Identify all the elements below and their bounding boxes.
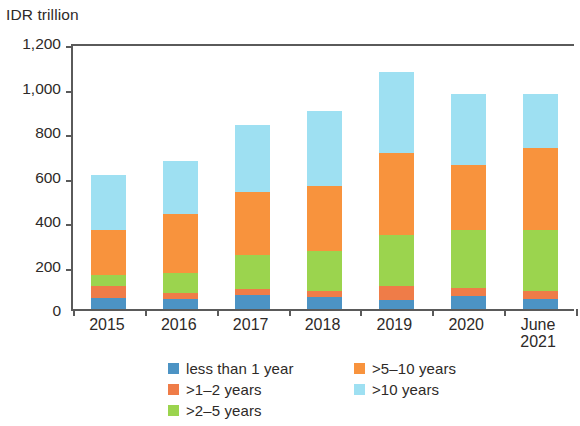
chart-legend: less than 1 year>1–2 years>2–5 years>5–1…	[168, 360, 498, 422]
legend-label: >5–10 years	[372, 360, 456, 377]
legend-label: less than 1 year	[186, 360, 294, 377]
bar-segment	[523, 148, 558, 230]
legend-label: >1–2 years	[186, 381, 262, 398]
legend-swatch-icon	[354, 384, 365, 395]
x-axis-tick	[504, 309, 506, 316]
legend-item[interactable]: >5–10 years	[354, 360, 456, 377]
bar-segment	[163, 273, 198, 293]
bar-segment	[91, 275, 126, 286]
y-axis-tick	[66, 269, 73, 271]
stacked-bar-chart: IDR trillion 02004006008001,0001,200 201…	[0, 0, 580, 426]
x-axis-tick-label: 2018	[287, 316, 359, 333]
legend-item[interactable]: >10 years	[354, 381, 439, 398]
legend-item[interactable]: >2–5 years	[168, 402, 262, 419]
bar-segment	[379, 235, 414, 286]
bar-stack	[91, 42, 126, 309]
bar-segment	[379, 72, 414, 153]
bar-stack	[379, 42, 414, 309]
bar-segment	[163, 161, 198, 214]
bar-segment	[451, 94, 486, 165]
x-axis-tick-label: 2020	[430, 316, 502, 333]
bar-segment	[91, 230, 126, 275]
y-axis-tick-label: 0	[0, 302, 61, 320]
legend-swatch-icon	[354, 363, 365, 374]
bar-segment	[235, 295, 270, 309]
bar-segment	[451, 165, 486, 230]
bar-segment	[163, 214, 198, 273]
bar-segment	[379, 153, 414, 235]
bar-segment	[523, 299, 558, 309]
x-axis-tick-label: 2017	[215, 316, 287, 333]
bar-segment	[235, 192, 270, 255]
legend-swatch-icon	[168, 405, 179, 416]
legend-label: >10 years	[372, 381, 439, 398]
bar-stack	[307, 42, 342, 309]
x-axis-tick	[73, 309, 75, 316]
bar-segment	[451, 230, 486, 288]
x-axis-tick	[360, 309, 362, 316]
y-axis-unit-label: IDR trillion	[6, 6, 79, 24]
bar-segment	[163, 293, 198, 299]
bar-segment	[307, 111, 342, 186]
x-axis-tick	[145, 309, 147, 316]
plot-area	[71, 44, 574, 311]
y-axis-tick-label: 200	[0, 258, 61, 276]
bars-layer	[73, 46, 574, 309]
x-axis-tick-label: 2016	[143, 316, 215, 333]
y-axis-tick	[66, 180, 73, 182]
x-axis-tick	[432, 309, 434, 316]
bar-segment	[307, 291, 342, 297]
y-axis-tick	[66, 135, 73, 137]
legend-swatch-icon	[168, 384, 179, 395]
bar-segment	[451, 296, 486, 309]
y-axis-tick-label: 400	[0, 213, 61, 231]
legend-item[interactable]: less than 1 year	[168, 360, 294, 377]
bar-segment	[91, 298, 126, 309]
bar-segment	[235, 125, 270, 192]
bar-segment	[523, 291, 558, 299]
legend-swatch-icon	[168, 363, 179, 374]
y-axis-tick-label: 1,200	[0, 35, 61, 53]
y-axis-tick	[66, 91, 73, 93]
y-axis-tick	[66, 46, 73, 48]
x-axis-tick-label: June 2021	[502, 316, 574, 351]
bar-segment	[91, 286, 126, 298]
x-axis-tick-label: 2015	[71, 316, 143, 333]
x-axis-tick	[217, 309, 219, 316]
y-axis-tick-label: 800	[0, 124, 61, 142]
y-axis-tick	[66, 224, 73, 226]
x-axis-tick	[289, 309, 291, 316]
bar-stack	[451, 42, 486, 309]
bar-segment	[523, 230, 558, 291]
bar-segment	[235, 255, 270, 289]
bar-segment	[307, 251, 342, 291]
bar-segment	[235, 289, 270, 295]
bar-segment	[379, 300, 414, 309]
y-axis-tick-label: 1,000	[0, 80, 61, 98]
bar-segment	[307, 186, 342, 251]
bar-stack	[523, 42, 558, 309]
bar-segment	[523, 94, 558, 149]
x-axis-tick	[576, 309, 578, 316]
bar-stack	[235, 42, 270, 309]
x-axis-tick-label: 2019	[358, 316, 430, 333]
legend-item[interactable]: >1–2 years	[168, 381, 262, 398]
legend-label: >2–5 years	[186, 402, 262, 419]
bar-stack	[163, 42, 198, 309]
bar-segment	[163, 299, 198, 309]
bar-segment	[379, 286, 414, 300]
bar-segment	[91, 175, 126, 230]
y-axis-tick-label: 600	[0, 169, 61, 187]
bar-segment	[451, 288, 486, 296]
bar-segment	[307, 297, 342, 309]
